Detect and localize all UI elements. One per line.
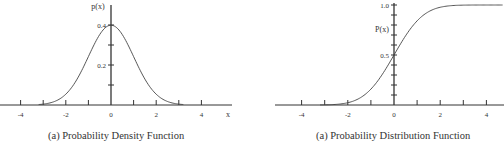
pdf-x-axis-label: x (226, 110, 230, 119)
pdf-chart (0, 5, 232, 105)
cdf-chart (275, 3, 504, 105)
pdf-caption: (a) Probability Density Function (48, 130, 184, 141)
cdf-x-tick-label: ‑2 (345, 111, 351, 119)
pdf-y-axis-label: p(x) (91, 2, 105, 11)
cdf-y-tick-label: 1.0 (380, 2, 389, 10)
cdf-y-axis-label: P(x) (375, 25, 389, 34)
cdf-x-tick-label: 4 (485, 111, 489, 119)
charts-canvas: ‑4‑20240.20.4xp(x) ‑4‑20240.51.0P(x) (0, 0, 504, 149)
cdf-x-tick-label: 2 (438, 111, 442, 119)
pdf-y-tick-label: 0.2 (97, 62, 106, 70)
pdf-x-tick-label: 0 (109, 111, 113, 119)
cdf-x-tick-label: ‑4 (299, 111, 305, 119)
cdf-x-tick-label: 0 (392, 111, 396, 119)
cdf-curve (320, 5, 502, 105)
pdf-x-tick-label: 2 (154, 111, 158, 119)
cdf-y-tick-label: 0.5 (380, 52, 389, 60)
pdf-x-tick-label: ‑4 (18, 111, 24, 119)
pdf-labels: ‑4‑20240.20.4xp(x) (18, 2, 230, 119)
pdf-x-tick-label: ‑2 (63, 111, 69, 119)
pdf-y-tick-label: 0.4 (97, 22, 106, 30)
pdf-x-tick-label: 4 (200, 111, 204, 119)
cdf-caption: (a) Probability Distribution Function (316, 130, 470, 141)
